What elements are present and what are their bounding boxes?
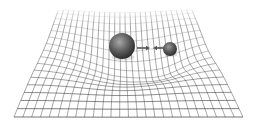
spacetime-diagram: Spacetime curvature with two masses — [0, 0, 256, 126]
small-mass-sphere — [163, 42, 177, 56]
large-mass-sphere — [109, 33, 135, 59]
arrow-head-icon — [153, 46, 157, 50]
spacetime-grid-illustration — [0, 0, 256, 126]
horizon-fade — [0, 0, 256, 26]
